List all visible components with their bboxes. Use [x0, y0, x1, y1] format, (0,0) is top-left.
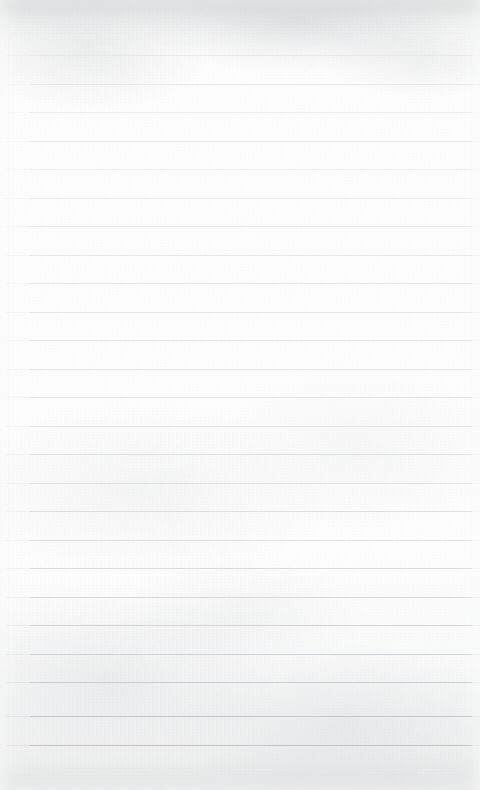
rule-line: [30, 84, 472, 85]
rule-line: [30, 55, 472, 56]
rule-line: [30, 369, 472, 370]
rule-line: [30, 169, 472, 170]
rule-line: [30, 568, 472, 569]
rule-line: [30, 426, 472, 427]
rule-line: [30, 540, 472, 541]
rule-line: [30, 682, 472, 683]
rule-line: [30, 226, 472, 227]
paper-edge-shading: [0, 0, 480, 790]
rule-line: [30, 112, 472, 113]
ruled-lines-group: [0, 0, 480, 790]
rule-line: [30, 283, 472, 284]
rule-line: [30, 198, 472, 199]
rule-line: [30, 625, 472, 626]
paper-grain-texture: [0, 0, 480, 790]
rule-line: [30, 454, 472, 455]
rule-line: [30, 340, 472, 341]
rule-line: [30, 597, 472, 598]
rule-line: [30, 654, 472, 655]
rule-line: [30, 141, 472, 142]
rule-line: [30, 312, 472, 313]
rule-line: [30, 255, 472, 256]
rule-line: [30, 745, 472, 746]
rule-line: [30, 483, 472, 484]
rule-line: [30, 511, 472, 512]
rule-line: [30, 716, 472, 717]
ruled-paper-sheet: [0, 0, 480, 790]
rule-line: [30, 397, 472, 398]
